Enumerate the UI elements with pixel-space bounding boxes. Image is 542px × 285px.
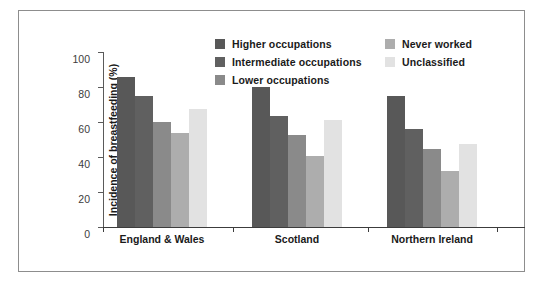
y-axis-tick: 40 xyxy=(98,157,103,158)
bar[interactable] xyxy=(153,122,171,227)
bar[interactable] xyxy=(387,96,405,227)
y-axis-tick-label: 20 xyxy=(78,192,90,193)
legend-swatch-icon xyxy=(215,39,225,49)
y-axis-tick: 60 xyxy=(98,122,103,123)
x-axis-group-label: Scotland xyxy=(275,233,319,245)
plot-area: Incidence of breastfeeding (%) 020406080… xyxy=(103,52,503,228)
y-axis-tick-label: 0 xyxy=(84,227,90,228)
bar[interactable] xyxy=(459,144,477,227)
bar[interactable] xyxy=(270,116,288,227)
chart-figure: Higher occupationsIntermediate occupatio… xyxy=(18,10,525,272)
bar[interactable] xyxy=(423,149,441,227)
bar-group-bars xyxy=(387,52,477,227)
y-axis-tick-label: 100 xyxy=(72,52,90,53)
x-axis-group-tick xyxy=(497,227,498,232)
y-axis-tick: 100 xyxy=(98,52,103,53)
legend-item[interactable]: Never worked xyxy=(385,35,472,52)
y-axis-tick-label: 80 xyxy=(78,87,90,88)
legend-item[interactable]: Higher occupations xyxy=(215,35,362,52)
y-axis-line xyxy=(103,52,104,228)
bar[interactable] xyxy=(252,87,270,227)
x-axis-group-label: Northern Ireland xyxy=(391,233,473,245)
bar[interactable] xyxy=(306,156,324,227)
x-axis-group-tick xyxy=(103,227,104,232)
bar[interactable] xyxy=(405,129,423,227)
bar[interactable] xyxy=(117,77,135,228)
y-axis-tick: 20 xyxy=(98,192,103,193)
x-axis-group-tick xyxy=(368,227,369,232)
y-axis-tick-label: 40 xyxy=(78,157,90,158)
legend-item-label: Never worked xyxy=(402,38,472,50)
x-axis-group-label: England & Wales xyxy=(120,233,205,245)
bar[interactable] xyxy=(441,171,459,227)
legend-item-label: Higher occupations xyxy=(232,38,332,50)
y-axis-tick-label: 60 xyxy=(78,122,90,123)
x-axis-group-tick xyxy=(233,227,234,232)
bar[interactable] xyxy=(135,96,153,227)
bar[interactable] xyxy=(171,133,189,227)
x-axis-line xyxy=(103,227,525,228)
legend-swatch-icon xyxy=(385,39,395,49)
y-axis-tick: 80 xyxy=(98,87,103,88)
bar[interactable] xyxy=(324,120,342,227)
bar[interactable] xyxy=(288,135,306,227)
bar-group-bars xyxy=(252,52,342,227)
bar-group-bars xyxy=(117,52,207,227)
bar[interactable] xyxy=(189,109,207,227)
